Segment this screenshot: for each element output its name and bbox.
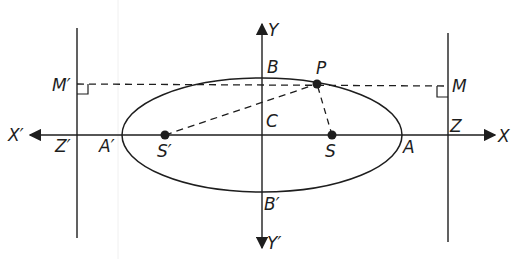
label-y: Y [268,20,280,40]
label-y-prime: Y′ [267,233,281,253]
label-x-prime: X′ [7,125,24,145]
right-angle-marker-right [437,86,448,97]
label-b-prime: B′ [264,194,280,214]
label-m-prime: M′ [52,75,71,95]
label-a: A [402,137,415,157]
label-p: P [316,58,327,78]
ellipse-diagram: Y Y′ X X′ B B′ C P M M′ Z Z′ A A′ S S′ [0,0,514,259]
right-angle-marker-left [77,84,88,94]
focus-s [328,131,337,140]
dashed-line-sprime-p [165,84,317,135]
focus-s-prime [161,131,170,140]
point-p [313,80,322,89]
dashed-line-s-p [317,84,332,135]
label-c: C [266,111,278,131]
label-s-prime: S′ [157,141,172,161]
label-x: X [497,126,510,146]
label-a-prime: A′ [98,136,115,156]
label-m: M [452,76,467,96]
label-b: B [267,57,279,77]
label-s: S [325,141,336,161]
label-z-prime: Z′ [54,136,71,156]
label-z: Z [449,116,462,136]
